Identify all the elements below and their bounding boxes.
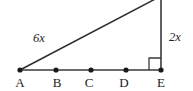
vertex-dot-a (17, 67, 22, 72)
vertex-dot-e (158, 67, 163, 72)
vertex-dot-d (123, 67, 128, 72)
vertical-leg-length-label: 2x (169, 31, 181, 44)
point-label-e: E (153, 76, 169, 89)
hypotenuse-length-label: 6x (33, 32, 45, 45)
point-label-b: B (49, 76, 65, 89)
point-label-d: D (116, 76, 132, 89)
vertex-dot-b (53, 67, 58, 72)
point-label-a: A (12, 76, 28, 89)
point-label-c: C (81, 76, 97, 89)
geometry-diagram: 6x 2x A B C D E (0, 0, 193, 91)
vertex-dot-c (88, 67, 93, 72)
